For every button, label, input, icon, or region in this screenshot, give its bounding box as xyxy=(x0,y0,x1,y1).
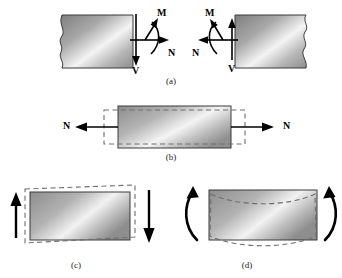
label-N-b-right: N xyxy=(283,121,290,131)
right-block xyxy=(232,12,322,74)
panel-d: M M (d) xyxy=(171,172,342,278)
caption-c: (c) xyxy=(56,260,96,270)
panel-a: M N V xyxy=(0,0,342,90)
label-V-left: V xyxy=(132,66,139,76)
bending-element xyxy=(175,176,340,256)
panel-b: N N (b) xyxy=(0,90,342,165)
panel-c: V V (c) xyxy=(0,172,171,278)
label-V-right: V xyxy=(228,64,235,74)
label-N-b-left: N xyxy=(63,121,70,131)
label-M-right: M xyxy=(205,8,214,18)
caption-b: (b) xyxy=(151,152,191,162)
mechanics-figure: M N V xyxy=(0,0,342,278)
caption-d: (d) xyxy=(227,260,267,270)
axial-element xyxy=(55,98,295,156)
label-N-left: N xyxy=(168,48,175,58)
shear-element xyxy=(4,176,169,256)
label-N-right: N xyxy=(192,48,199,58)
caption-a: (a) xyxy=(151,76,191,86)
label-M-left: M xyxy=(157,8,166,18)
